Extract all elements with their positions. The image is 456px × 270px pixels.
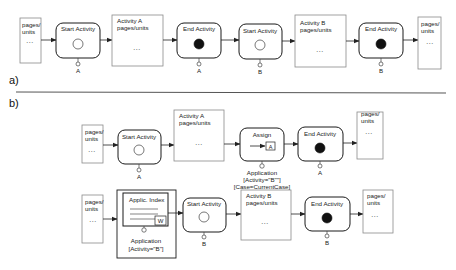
activity-param-caption: [Activity="B"] — [128, 245, 163, 252]
port-icon — [325, 234, 329, 238]
port-label: A — [76, 67, 81, 74]
port-label: A — [318, 169, 323, 176]
ellipsis: ... — [365, 128, 372, 135]
units-label: units — [421, 27, 434, 34]
application-index-node: Applic. Index W Application [Activity="B… — [117, 190, 176, 258]
start-activity-node: Start Activity A — [56, 23, 100, 74]
port-label: A — [137, 173, 142, 180]
assign-target-label: A — [269, 144, 273, 150]
section-b-label: b) — [9, 97, 19, 109]
start-activity-label: Start Activity — [122, 133, 157, 140]
port-icon — [318, 164, 322, 168]
activity-b-title: Activity B — [246, 192, 271, 199]
row-a: pages/ units ... Start Activity A Activi… — [20, 15, 441, 75]
ellipsis: ... — [316, 46, 323, 53]
row-b2: pages/ units ... Applic. Index W Applica… — [82, 190, 393, 258]
end-activity-label: End Activity — [304, 130, 337, 137]
activity-b-node: Activity B pages/units ... — [241, 190, 291, 240]
ellipsis: ... — [261, 218, 268, 225]
activity-b-node: Activity B pages/units ... — [295, 15, 346, 67]
end-activity-node: End Activity A — [298, 127, 343, 176]
pages-label: pages/ — [85, 128, 104, 135]
end-activity-label: End Activity — [311, 200, 344, 207]
pages-label: pages/ — [22, 21, 41, 28]
pages-units-node: pages/ units ... — [363, 190, 393, 233]
section-a-label: a) — [9, 74, 19, 86]
port-label: B — [325, 239, 329, 246]
ellipsis: ... — [133, 44, 140, 51]
end-activity-label: End Activity — [183, 25, 216, 32]
start-event-icon — [134, 145, 144, 155]
activity-b-subtitle: pages/units — [300, 26, 332, 33]
port-label: B — [202, 240, 206, 247]
ellipsis: ... — [195, 139, 202, 146]
ellipsis: ... — [26, 37, 33, 44]
case-param-caption: [Case=CurrentCase] — [234, 183, 291, 190]
pages-units-node: pages/ units ... — [82, 195, 104, 243]
row-b1: pages/ units ... Start Activity A Activi… — [82, 110, 383, 190]
start-activity-label: Start Activity — [243, 27, 278, 34]
start-event-icon — [255, 40, 265, 50]
pages-units-node: pages/ units ... — [20, 18, 41, 63]
end-activity-node: End Activity B — [305, 197, 350, 246]
section-divider — [16, 92, 446, 93]
end-event-icon — [376, 39, 386, 49]
activity-a-subtitle: pages/units — [117, 24, 149, 31]
end-event-icon — [315, 143, 325, 153]
end-event-icon — [194, 39, 204, 49]
ellipsis: ... — [88, 146, 95, 153]
ellipsis: ... — [371, 211, 378, 218]
activity-a-title: Activity A — [117, 17, 143, 24]
port-label: B — [258, 68, 262, 75]
pages-label: pages/ — [85, 198, 104, 205]
start-activity-label: Start Activity — [61, 25, 96, 32]
port-icon — [137, 168, 141, 172]
activity-b-subtitle: pages/units — [246, 199, 278, 206]
assign-node: Assign A Application [Activity="B""] [Ca… — [234, 128, 291, 190]
pages-label: pages/ — [361, 110, 380, 117]
activity-a-title: Activity A — [179, 112, 205, 119]
activity-a-node: Activity A pages/units ... — [174, 110, 224, 161]
pages-label: pages/ — [421, 20, 440, 27]
activity-b-title: Activity B — [300, 19, 325, 26]
ellipsis: ... — [89, 216, 96, 223]
start-event-icon — [73, 39, 83, 49]
pages-units-node: pages/ units ... — [418, 17, 441, 69]
application-caption: Application — [131, 237, 162, 244]
port-icon — [379, 62, 383, 66]
pages-label: pages/ — [367, 192, 386, 199]
start-activity-label: Start Activity — [187, 200, 222, 207]
port-icon — [260, 164, 264, 168]
start-event-icon — [199, 212, 209, 222]
activity-param-caption: [Activity="B""] — [243, 176, 281, 183]
pages-units-node: pages/ units ... — [82, 125, 104, 163]
activity-a-subtitle: pages/units — [179, 119, 211, 126]
end-event-icon — [322, 213, 332, 223]
units-label: units — [85, 135, 98, 142]
port-icon — [197, 62, 201, 66]
start-activity-node: Start Activity B — [183, 198, 226, 247]
units-label: units — [22, 28, 35, 35]
application-caption: Application — [247, 169, 278, 176]
port-icon — [76, 62, 80, 66]
pages-units-node: pages/ units ... — [357, 110, 383, 159]
port-label: A — [197, 67, 202, 74]
units-label: units — [367, 199, 380, 206]
end-activity-label: End Activity — [365, 25, 398, 32]
worklist-badge-label: W — [158, 218, 164, 224]
ellipsis: ... — [426, 38, 433, 45]
applic-index-title: Applic. Index — [129, 196, 165, 203]
units-label: units — [85, 205, 98, 212]
assign-label: Assign — [253, 131, 272, 138]
start-activity-node: Start Activity A — [118, 130, 161, 180]
port-icon — [202, 235, 206, 239]
start-activity-node: Start Activity B — [239, 24, 282, 75]
process-diagram: pages/ units ... Start Activity A Activi… — [0, 0, 456, 270]
port-icon — [142, 228, 146, 232]
port-icon — [258, 63, 262, 67]
port-label: B — [379, 67, 383, 74]
activity-a-node: Activity A pages/units ... — [112, 15, 163, 66]
units-label: units — [361, 117, 374, 124]
end-activity-node: End Activity B — [359, 23, 403, 74]
end-activity-node: End Activity A — [177, 23, 221, 74]
